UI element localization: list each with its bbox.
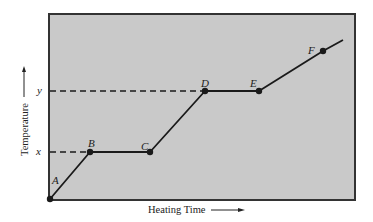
plot-area [49, 14, 355, 200]
up-arrow-icon [22, 66, 26, 72]
point-a-marker [47, 196, 53, 202]
point-a-label: A [51, 174, 59, 186]
x-axis-label: Heating Time [148, 204, 206, 215]
level-y-label: y [36, 84, 42, 96]
point-e-marker [256, 88, 262, 94]
point-b-marker [87, 149, 93, 155]
level-x-label: x [35, 145, 41, 157]
y-axis-label: Temperature [19, 103, 30, 156]
point-f-marker [320, 48, 326, 54]
point-c-label: C [141, 140, 149, 152]
point-d-label: D [200, 77, 209, 89]
point-f-label: F [307, 44, 315, 56]
heating-curve-diagram: A B C D E F y x Temperature Heating Time [0, 0, 373, 222]
point-b-label: B [88, 137, 95, 149]
point-e-label: E [249, 77, 257, 89]
right-arrow-icon [238, 208, 245, 212]
